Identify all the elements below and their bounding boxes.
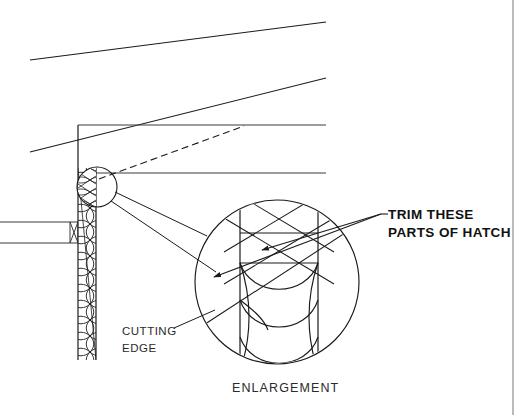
trim-note-line-2: PARTS OF HATCH [388, 225, 511, 240]
leader-lower [111, 201, 216, 272]
ceiling-lines [78, 125, 326, 173]
cutting-edge-line-1: CUTTING [122, 325, 177, 337]
enlargement-title: ENLARGEMENT [232, 381, 339, 395]
cutting-edge-note: CUTTING EDGE [122, 325, 177, 354]
enlargement-title-text: ENLARGEMENT [232, 381, 339, 395]
trim-note-line-1: TRIM THESE [388, 207, 474, 222]
floor-ledge [0, 222, 78, 243]
hidden-dashed-line [99, 126, 244, 179]
trimmed-batt-hatch [240, 263, 318, 371]
enlargement-outline [195, 200, 359, 364]
callout-leader-lines [111, 192, 216, 272]
roof-line-lower [30, 78, 326, 152]
sloped-roof-lines [30, 22, 326, 152]
technical-drawing-svg: TRIM THESE PARTS OF HATCH CUTTING EDGE E… [0, 0, 523, 415]
cutting-edge-line-2: EDGE [122, 342, 157, 354]
enlargement-wall-faces [240, 196, 318, 372]
trim-note: TRIM THESE PARTS OF HATCH [388, 207, 511, 240]
leader-upper [115, 192, 207, 236]
cutting-edge-leader [174, 310, 215, 328]
cutting-edge-line [196, 222, 362, 330]
roof-line-upper [30, 22, 326, 60]
insulated-wall-section [78, 125, 96, 360]
cad-drawing-canvas: TRIM THESE PARTS OF HATCH CUTTING EDGE E… [0, 0, 523, 415]
enlargement-detail [195, 186, 362, 372]
